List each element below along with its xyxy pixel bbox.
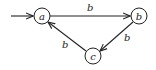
- node-b: b: [131, 8, 147, 24]
- edge-label-b-c: b: [124, 32, 130, 43]
- node-c: c: [85, 48, 101, 64]
- edge-label-c-a: b: [62, 39, 68, 50]
- node-label-c: c: [90, 51, 96, 62]
- node-a: a: [34, 8, 50, 24]
- node-label-a: a: [39, 11, 45, 22]
- state-diagram: b b b a b c: [0, 0, 156, 70]
- node-label-b: b: [136, 11, 142, 22]
- edge-label-a-b: b: [87, 2, 93, 13]
